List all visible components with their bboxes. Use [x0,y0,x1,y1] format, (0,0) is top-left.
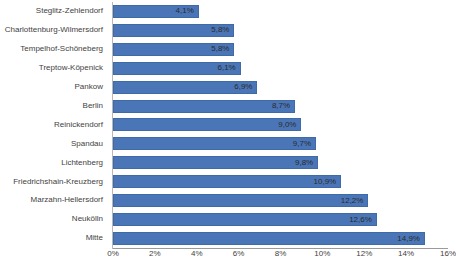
bar-value-label: 5,8% [211,45,229,53]
value-axis-label: 8% [275,250,287,258]
category-axis-label: Lichtenberg [0,153,108,172]
bar-value-label: 6,9% [234,83,252,91]
category-axis-label: Friedrichshain-Kreuzberg [0,172,108,191]
category-axis-label: Mitte [0,229,108,248]
bar-row: 6,9% [113,78,448,97]
bar-row: 10,9% [113,172,448,191]
value-axis-label: 4% [191,250,203,258]
bar[interactable]: 5,8% [113,43,234,56]
bar-value-label: 9,7% [293,140,311,148]
category-axis-label: Tempelhof-Schöneberg [0,40,108,59]
bar-value-label: 9,0% [278,121,296,129]
bar[interactable]: 9,8% [113,156,318,169]
bar[interactable]: 12,6% [113,213,377,226]
bar[interactable]: 9,7% [113,137,316,150]
bar-row: 5,8% [113,21,448,40]
bar-value-label: 8,7% [272,102,290,110]
bar-value-label: 4,1% [176,7,194,15]
bar[interactable]: 6,1% [113,62,241,75]
value-axis-labels: 0%2%4%6%8%10%12%14%16% [113,250,448,266]
bar-row: 9,7% [113,134,448,153]
bar-row: 12,2% [113,191,448,210]
plot-area: 4,1%5,8%5,8%6,1%6,9%8,7%9,0%9,7%9,8%10,9… [113,2,448,248]
value-axis-label: 6% [233,250,245,258]
bar-row: 9,0% [113,116,448,135]
bar-value-label: 12,6% [349,216,372,224]
category-axis-label: Charlottenburg-Wilmersdorf [0,21,108,40]
bar-value-label: 10,9% [314,178,337,186]
value-axis-label: 12% [356,250,372,258]
bar-row: 14,9% [113,229,448,248]
bar[interactable]: 14,9% [113,232,425,245]
bar[interactable]: 4,1% [113,5,199,18]
bar-value-label: 6,1% [217,64,235,72]
bar-value-label: 12,2% [341,197,364,205]
value-axis-label: 0% [107,250,119,258]
category-axis-label: Spandau [0,134,108,153]
bar-row: 5,8% [113,40,448,59]
bar-row: 12,6% [113,210,448,229]
bar-value-label: 9,8% [295,159,313,167]
category-axis-label: Treptow-Köpenick [0,59,108,78]
bar[interactable]: 6,9% [113,81,257,94]
bar-row: 8,7% [113,97,448,116]
bar[interactable]: 9,0% [113,118,301,131]
value-axis-label: 2% [149,250,161,258]
value-axis-label: 16% [440,250,456,258]
bar[interactable]: 5,8% [113,24,234,37]
category-axis-label: Berlin [0,97,108,116]
value-axis-label: 10% [314,250,330,258]
bar-value-label: 14,9% [397,235,420,243]
category-axis-label: Marzahn-Hellersdorf [0,191,108,210]
bar[interactable]: 8,7% [113,100,295,113]
bar-row: 4,1% [113,2,448,21]
category-axis-label: Steglitz-Zehlendorf [0,2,108,21]
bar-rows: 4,1%5,8%5,8%6,1%6,9%8,7%9,0%9,7%9,8%10,9… [113,2,448,248]
bar-value-label: 5,8% [211,26,229,34]
bar-row: 6,1% [113,59,448,78]
bar-row: 9,8% [113,153,448,172]
category-axis-label: Pankow [0,78,108,97]
value-axis-label: 14% [398,250,414,258]
bar[interactable]: 12,2% [113,194,368,207]
bar[interactable]: 10,9% [113,175,341,188]
category-axis-labels: Steglitz-ZehlendorfCharlottenburg-Wilmer… [0,2,108,248]
category-axis-label: Reinickendorf [0,116,108,135]
category-axis-label: Neukölln [0,210,108,229]
